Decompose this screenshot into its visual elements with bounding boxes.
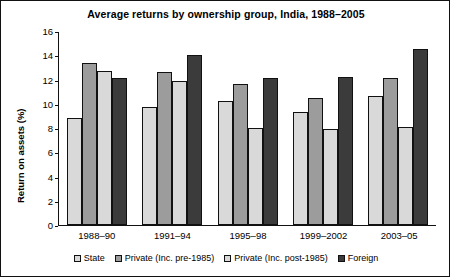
y-tick-mark (55, 202, 58, 203)
x-tick-label: 1988–90 (59, 230, 135, 241)
y-tick-mark (55, 56, 58, 57)
x-axis-labels: 1988–901991–941995–981999–20022003–05 (59, 230, 437, 241)
legend-item[interactable]: Private (Inc. pre-1985) (115, 253, 215, 263)
bar (157, 72, 172, 225)
bar-groups (59, 32, 436, 225)
y-axis-title-text: Return on assets (%) (15, 109, 26, 204)
bar-group (210, 32, 285, 225)
x-axis-line (58, 225, 436, 226)
chart-legend: StatePrivate (Inc. pre-1985)Private (Inc… (1, 253, 450, 263)
bar (383, 78, 398, 225)
bar-group (59, 32, 134, 225)
bar (308, 98, 323, 225)
x-tick-label: 1991–94 (135, 230, 211, 241)
legend-swatch-icon (74, 255, 81, 262)
legend-label: Foreign (348, 253, 379, 263)
y-tick-mark (55, 81, 58, 82)
chart-figure: Average returns by ownership group, Indi… (0, 0, 450, 277)
bar (218, 101, 233, 225)
bar (368, 96, 383, 225)
bar (142, 107, 157, 225)
bar (97, 71, 112, 225)
y-tick-label: 4 (48, 173, 53, 183)
legend-swatch-icon (115, 255, 122, 262)
bar (112, 78, 127, 225)
legend-swatch-icon (224, 255, 231, 262)
y-axis-title: Return on assets (%) (3, 63, 17, 203)
y-tick-label: 14 (42, 52, 53, 62)
bar-group (361, 32, 436, 225)
y-tick-label: 2 (48, 197, 53, 207)
y-tick-mark (55, 32, 58, 33)
legend-item[interactable]: Private (Inc. post-1985) (224, 253, 328, 263)
legend-item[interactable]: Foreign (338, 253, 379, 263)
bar (67, 118, 82, 225)
y-tick-mark (55, 178, 58, 179)
bar (338, 77, 353, 225)
bar-group (285, 32, 360, 225)
y-tick-mark (55, 105, 58, 106)
y-tick-label: 16 (42, 27, 53, 37)
bar (413, 49, 428, 225)
bar (293, 112, 308, 225)
bar (82, 63, 97, 225)
legend-label: Private (Inc. post-1985) (234, 253, 328, 263)
bar (248, 128, 263, 225)
plot-area: 0246810121416 (58, 32, 436, 226)
y-tick-label: 12 (42, 76, 53, 86)
bar (398, 127, 413, 225)
chart-title: Average returns by ownership group, Indi… (1, 8, 450, 20)
bar (172, 81, 187, 225)
legend-label: State (84, 253, 105, 263)
y-tick-mark (55, 153, 58, 154)
bar (263, 78, 278, 225)
legend-item[interactable]: State (74, 253, 105, 263)
x-tick-label: 1999–2002 (286, 230, 362, 241)
bar (323, 129, 338, 225)
y-tick-label: 10 (42, 100, 53, 110)
bar (187, 55, 202, 225)
legend-label: Private (Inc. pre-1985) (125, 253, 215, 263)
legend-swatch-icon (338, 255, 345, 262)
x-tick-label: 2003–05 (361, 230, 437, 241)
bar (233, 84, 248, 225)
y-tick-label: 0 (48, 221, 53, 231)
x-tick-label: 1995–98 (210, 230, 286, 241)
y-tick-label: 8 (48, 124, 53, 134)
y-tick-mark (55, 226, 58, 227)
y-tick-mark (55, 129, 58, 130)
y-tick-label: 6 (48, 149, 53, 159)
bar-group (134, 32, 209, 225)
